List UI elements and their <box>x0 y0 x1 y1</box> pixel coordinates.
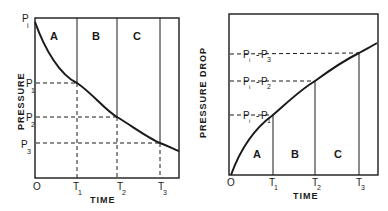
left-region-a: A <box>50 30 58 42</box>
left-t3-label-sub: 3 <box>163 189 167 196</box>
right-y-axis-label: PRESSURE DROP <box>198 47 208 138</box>
right-p1-label-bsub: 1 <box>267 117 271 124</box>
left-x-axis-label: TIME <box>90 195 116 205</box>
right-t3-label-sub: 3 <box>361 184 365 191</box>
right-t2-label-sub: 2 <box>317 184 321 191</box>
right-chart-labels: PRESSURE DROP P i - P 3 P i - P 2 P i - … <box>198 47 365 201</box>
left-p1-label-sub: 1 <box>31 87 35 94</box>
left-chart-labels: P i A B C PRESSURE P 1 P 2 P 3 O T 1 T 2… <box>16 13 167 205</box>
right-p1-label-asub: i <box>249 118 250 124</box>
left-pi-label-sub: i <box>27 22 29 29</box>
right-p1-label-dash: - <box>256 110 259 121</box>
left-t2-label-sub: 2 <box>122 189 126 196</box>
right-region-c: C <box>334 148 342 160</box>
right-p2-label-bsub: 2 <box>267 83 271 90</box>
left-p3-label-sub: 3 <box>27 148 31 155</box>
right-p3-label-asub: i <box>249 57 250 63</box>
right-chart <box>229 14 378 175</box>
right-x-axis-label: TIME <box>293 191 319 201</box>
right-t1-label-sub: 1 <box>274 184 278 191</box>
left-chart-frame <box>35 18 179 178</box>
right-region-b: B <box>291 148 299 160</box>
left-y-axis-label: PRESSURE <box>16 72 26 130</box>
left-origin-label: O <box>33 181 41 192</box>
right-p2-label-dash: - <box>256 76 259 87</box>
right-p3-label-dash: - <box>256 49 259 60</box>
left-t1-label-sub: 1 <box>78 189 82 196</box>
right-p2-label-asub: i <box>249 84 250 90</box>
left-region-b: B <box>92 30 100 42</box>
right-chart-frame <box>229 14 378 175</box>
left-p2-label-sub: 2 <box>31 121 35 128</box>
left-chart <box>35 18 179 178</box>
left-region-c: C <box>133 30 141 42</box>
right-p3-label-bsub: 3 <box>267 56 271 63</box>
right-region-a: A <box>253 148 261 160</box>
right-origin-label: O <box>227 177 235 188</box>
pressure-diagram: P i A B C PRESSURE P 1 P 2 P 3 O T 1 T 2… <box>0 0 388 211</box>
